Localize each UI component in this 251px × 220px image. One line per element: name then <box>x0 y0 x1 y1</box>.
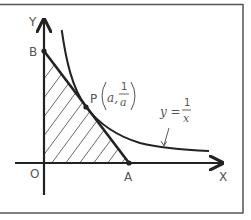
curve-num: 1 <box>184 97 190 108</box>
curve-label-arrowhead <box>161 141 167 146</box>
curve-label-leader <box>164 128 169 145</box>
p-coord-x: a, <box>107 91 118 105</box>
point-p-dot <box>83 104 88 109</box>
curve-den: x <box>183 112 190 125</box>
point-p-label: P a, 1 a <box>90 81 135 110</box>
point-p-letter: P <box>90 92 97 106</box>
curve-lhs: y = <box>159 105 181 119</box>
curve-equation-label: y = 1 x <box>159 97 191 125</box>
right-paren <box>131 82 135 110</box>
point-b-label: B <box>29 45 37 59</box>
p-coord-num: 1 <box>121 81 127 92</box>
point-a-dot <box>126 160 131 165</box>
hyperbola-curve <box>62 30 209 151</box>
x-axis-label: X <box>219 170 227 184</box>
left-paren <box>102 82 106 110</box>
p-coord-den: a <box>120 96 127 109</box>
hatched-region <box>0 60 240 214</box>
origin-label: O <box>30 167 39 181</box>
diagram-canvas: Y X O B A P a, 1 a y = 1 x <box>0 0 251 220</box>
point-a-label: A <box>124 170 133 184</box>
y-axis-label: Y <box>28 15 37 29</box>
point-b-dot <box>41 48 46 53</box>
